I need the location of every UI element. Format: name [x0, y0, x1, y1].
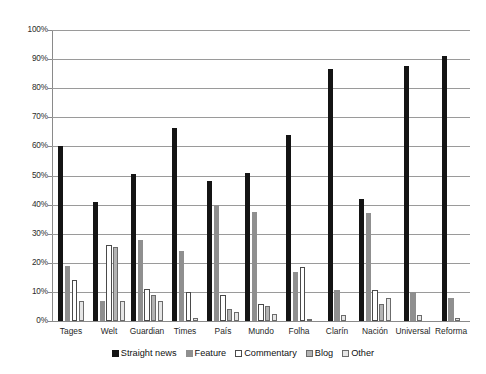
- legend-swatch-icon: [342, 350, 349, 357]
- bar-group: [204, 30, 242, 321]
- bar: [245, 173, 250, 321]
- x-axis-tick-label: Clarín: [318, 326, 356, 336]
- bar: [220, 295, 225, 321]
- y-axis-tick-label: 0%: [4, 317, 48, 325]
- bar: [179, 251, 184, 321]
- bar: [359, 199, 364, 321]
- bar: [72, 280, 77, 321]
- bar-group: [52, 30, 90, 321]
- bar: [193, 318, 198, 321]
- bar: [272, 314, 277, 321]
- bar-group: [432, 30, 470, 321]
- legend-label: Other: [351, 348, 374, 358]
- legend-item: Commentary: [235, 348, 297, 358]
- bar-group: [356, 30, 394, 321]
- bar: [131, 174, 136, 321]
- bar: [138, 240, 143, 321]
- y-axis-tick-label: 20%: [4, 259, 48, 267]
- bar: [372, 290, 377, 321]
- bar: [366, 213, 371, 321]
- chart-legend: Straight newsFeatureCommentaryBlogOther: [0, 348, 486, 358]
- bar: [158, 301, 163, 321]
- legend-item: Blog: [306, 348, 333, 358]
- bar: [379, 304, 384, 321]
- bar: [293, 272, 298, 321]
- bar-group: [90, 30, 128, 321]
- legend-label: Straight news: [121, 348, 177, 358]
- bar-chart: 100%90%80%70%60%50%40%30%20%10%0% TagesW…: [0, 0, 486, 374]
- bar: [448, 298, 453, 321]
- bar-group: [394, 30, 432, 321]
- bar: [186, 292, 191, 321]
- x-axis-tick-label: País: [204, 326, 242, 336]
- bar: [144, 289, 149, 321]
- legend-swatch-icon: [112, 350, 119, 357]
- bar: [455, 318, 460, 321]
- y-axis-tick-label: 30%: [4, 230, 48, 238]
- y-axis-tick-label: 40%: [4, 201, 48, 209]
- bar-group: [128, 30, 166, 321]
- x-axis-tick-label: Tages: [52, 326, 90, 336]
- bar: [227, 309, 232, 321]
- x-axis-tick-label: Times: [166, 326, 204, 336]
- bar: [341, 315, 346, 321]
- x-axis-tick-label: Folha: [280, 326, 318, 336]
- legend-swatch-icon: [306, 350, 313, 357]
- bar: [214, 205, 219, 321]
- bar: [65, 266, 70, 321]
- bar: [93, 202, 98, 321]
- x-axis-tick-label: Reforma: [432, 326, 470, 336]
- legend-item: Straight news: [112, 348, 177, 358]
- y-axis-tick-label: 10%: [4, 288, 48, 296]
- bar: [334, 290, 339, 321]
- bar: [113, 247, 118, 321]
- bar: [410, 292, 415, 321]
- bar: [417, 315, 422, 321]
- gridline: [52, 321, 470, 322]
- legend-label: Commentary: [244, 348, 297, 358]
- bar: [386, 298, 391, 321]
- bar: [207, 181, 212, 321]
- bar: [106, 245, 111, 321]
- x-axis-tick-label: Mundo: [242, 326, 280, 336]
- bar: [79, 301, 84, 321]
- legend-item: Other: [342, 348, 374, 358]
- bar: [258, 304, 263, 321]
- y-axis-tick-label: 50%: [4, 172, 48, 180]
- bar: [300, 267, 305, 321]
- x-axis-tick-label: Universal: [394, 326, 432, 336]
- y-axis-tick-label: 80%: [4, 84, 48, 92]
- legend-label: Feature: [195, 348, 227, 358]
- bar: [151, 295, 156, 321]
- bar: [265, 306, 270, 321]
- bar-group: [318, 30, 356, 321]
- bar: [404, 66, 409, 321]
- bar: [172, 128, 177, 322]
- y-axis-tick-label: 90%: [4, 55, 48, 63]
- bar: [234, 312, 239, 321]
- bar: [307, 319, 312, 321]
- legend-item: Feature: [186, 348, 227, 358]
- bar: [58, 146, 63, 321]
- bar-group: [242, 30, 280, 321]
- legend-swatch-icon: [235, 350, 242, 357]
- legend-label: Blog: [315, 348, 333, 358]
- bar: [442, 56, 447, 321]
- x-axis-tick-label: Guardian: [128, 326, 166, 336]
- x-axis-tick-label: Nación: [356, 326, 394, 336]
- legend-swatch-icon: [186, 350, 193, 357]
- y-axis-tick-label: 70%: [4, 113, 48, 121]
- x-axis-tick-label: Welt: [90, 326, 128, 336]
- bar: [252, 212, 257, 321]
- bar: [286, 135, 291, 321]
- bar-group: [280, 30, 318, 321]
- plot-area: [52, 30, 470, 321]
- bar: [120, 301, 125, 321]
- y-axis-tick-label: 60%: [4, 142, 48, 150]
- bar: [328, 69, 333, 321]
- bar: [100, 301, 105, 321]
- y-axis-tick-label: 100%: [4, 26, 48, 34]
- bar-group: [166, 30, 204, 321]
